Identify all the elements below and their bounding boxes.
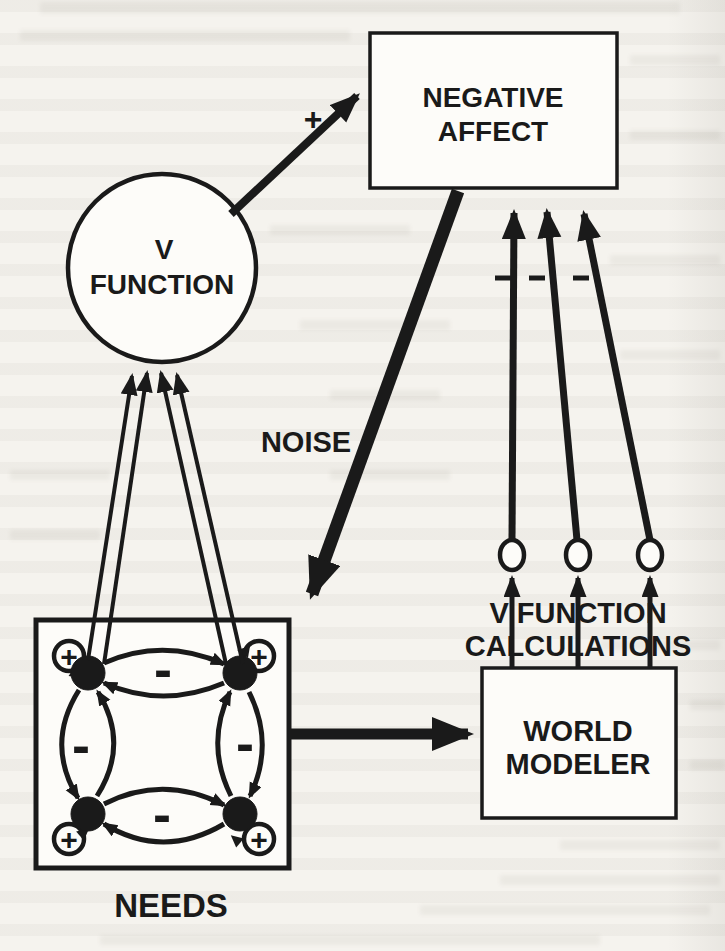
calculation-unit-2	[566, 540, 590, 570]
world-modeler-line1: WORLD	[523, 715, 633, 747]
vfunction-to-negative-affect-arrow	[231, 96, 357, 214]
world-modeler-line2: MODELER	[506, 748, 651, 780]
negative-affect-line1: NEGATIVE	[422, 82, 563, 113]
v-function-line2: FUNCTION	[90, 269, 235, 300]
plus-sign-vfunction-arrow: +	[304, 101, 323, 137]
v-function-line1: V	[155, 234, 174, 265]
plus-sign-top-left: +	[60, 640, 78, 673]
scanned-page: + + + + - - - - NEEDS V FUNCTION + NEGAT…	[0, 0, 725, 951]
plus-sign-bottom-left: +	[60, 823, 78, 856]
negative-affect-line2: AFFECT	[438, 116, 548, 147]
minus-sign-left: -	[72, 715, 90, 775]
plus-sign-top-right: +	[250, 640, 268, 673]
v-function-circle	[68, 174, 256, 362]
calculation-to-negative-affect-arrow-1	[512, 213, 514, 540]
calculation-unit-1	[500, 540, 524, 570]
calculation-unit-3	[638, 540, 662, 570]
needs-affect-diagram: + + + + - - - - NEEDS V FUNCTION + NEGAT…	[0, 0, 725, 951]
minus-sign-bottom: -	[153, 784, 171, 844]
plus-sign-bottom-right: +	[250, 823, 268, 856]
noise-label: NOISE	[261, 426, 351, 458]
calculation-to-negative-affect-arrow-2	[547, 212, 577, 540]
needs-label: NEEDS	[114, 887, 228, 924]
minus-sign-top: -	[154, 639, 172, 699]
minus-sign-right: -	[236, 713, 254, 773]
